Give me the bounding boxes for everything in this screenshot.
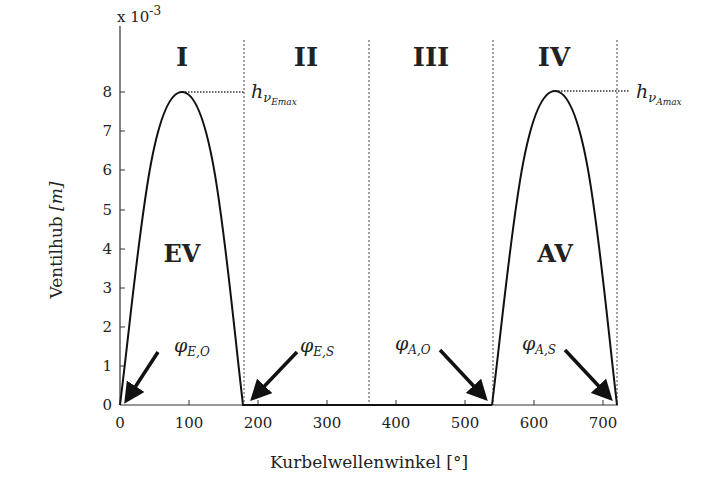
x-tick-label: 0 — [115, 414, 125, 432]
region-label-IV: IV — [538, 42, 571, 72]
y-tick-label: 1 — [102, 357, 112, 375]
phi-ES-label: φE,S — [300, 334, 334, 359]
x-tick-label: 500 — [451, 414, 480, 432]
region-label-III: III — [413, 42, 450, 72]
valve-lift-chart: 0 1 2 3 4 5 6 7 8 0 100 200 300 400 500 … — [0, 0, 722, 497]
phi-AO-label: φA,O — [395, 332, 431, 357]
x-tick-label: 300 — [313, 414, 342, 432]
x-tick-label: 600 — [520, 414, 549, 432]
region-label-II: II — [294, 42, 318, 72]
av-label: AV — [536, 239, 573, 268]
hE-max-label: hνEmax — [251, 80, 297, 107]
ev-label: EV — [164, 239, 201, 268]
y-tick-label: 6 — [102, 161, 112, 179]
y-tick-label: 4 — [102, 240, 112, 258]
region-label-I: I — [176, 42, 188, 72]
y-tick-label: 0 — [102, 396, 112, 414]
x-tick-label: 400 — [382, 414, 411, 432]
x-tick-label: 200 — [244, 414, 273, 432]
x-tick-label: 100 — [175, 414, 204, 432]
y-tick-label: 3 — [102, 279, 112, 297]
x-axis-label: Kurbelwellenwinkel [°] — [270, 452, 468, 472]
y-tick-label: 7 — [102, 122, 112, 140]
y-tick-label: 8 — [102, 83, 112, 101]
phi-AS-label: φA,S — [522, 332, 556, 357]
y-axis-label: Ventilhub [m] — [46, 181, 66, 299]
y-tick-label: 5 — [102, 201, 112, 219]
y-multiplier: x 10-3 — [117, 4, 161, 26]
phi-EO-label: φE,O — [174, 334, 210, 359]
y-ticks: 0 1 2 3 4 5 6 7 8 — [102, 83, 125, 414]
hA-max-label: hνAmax — [636, 80, 682, 107]
y-tick-label: 2 — [102, 318, 112, 336]
x-tick-label: 700 — [589, 414, 618, 432]
